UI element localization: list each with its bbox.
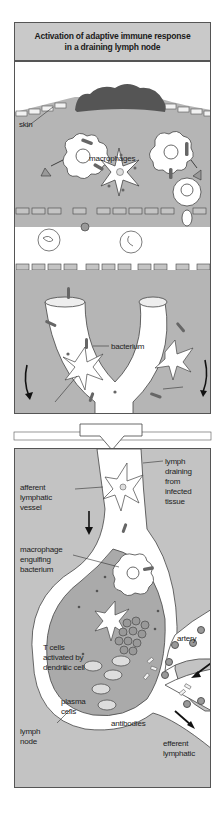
label-lymph-draining-3: from xyxy=(165,477,180,487)
label-macrophage-engulfing-2: engulfing xyxy=(20,555,51,565)
label-lymph-draining-4: infected xyxy=(165,487,191,497)
label-efferent-2: lymphatic xyxy=(163,749,195,759)
label-macrophages: macrophages xyxy=(89,154,135,164)
label-lymph-draining-1: lymph xyxy=(165,457,185,467)
label-efferent-1: efferent xyxy=(163,739,188,749)
diagram-title: Activation of adaptive immune response i… xyxy=(14,22,211,61)
connector-arrow-icon xyxy=(0,410,224,452)
label-plasma-2: cells xyxy=(61,707,76,717)
lymph-node-panel: lymph draining from infected tissue affe… xyxy=(14,448,211,788)
label-skin: skin xyxy=(19,120,32,130)
label-antibodies: antibodies xyxy=(111,719,145,729)
tissue-illustration xyxy=(15,62,211,414)
label-macrophage-engulfing-3: bacterium xyxy=(20,565,53,575)
title-line-2: in a draining lymph node xyxy=(65,42,161,53)
label-lymph-draining-2: draining xyxy=(165,467,192,477)
label-tcells-1: T cells xyxy=(43,643,65,653)
label-lymph-node-2: node xyxy=(20,737,37,747)
label-bacterium: bacterium xyxy=(111,342,144,352)
label-lymph-node-1: lymph xyxy=(20,727,40,737)
title-line-1: Activation of adaptive immune response xyxy=(35,31,191,42)
label-afferent-3: vessel xyxy=(20,503,41,513)
infected-tissue-panel: skin macrophages bacterium pathogen- car… xyxy=(14,61,211,414)
label-macrophage-engulfing-1: macrophage xyxy=(20,545,62,555)
blood-cells xyxy=(38,223,142,253)
label-lymph-draining-5: tissue xyxy=(165,497,185,507)
label-tcells-3: dendritic cell xyxy=(43,663,85,673)
label-afferent-1: afferent xyxy=(20,483,45,493)
wound-scab-icon xyxy=(75,84,166,112)
label-tcells-2: activated by xyxy=(43,653,83,663)
label-artery: artery xyxy=(177,634,196,644)
label-plasma-1: plasma xyxy=(61,697,86,707)
label-afferent-2: lymphatic xyxy=(20,493,52,503)
